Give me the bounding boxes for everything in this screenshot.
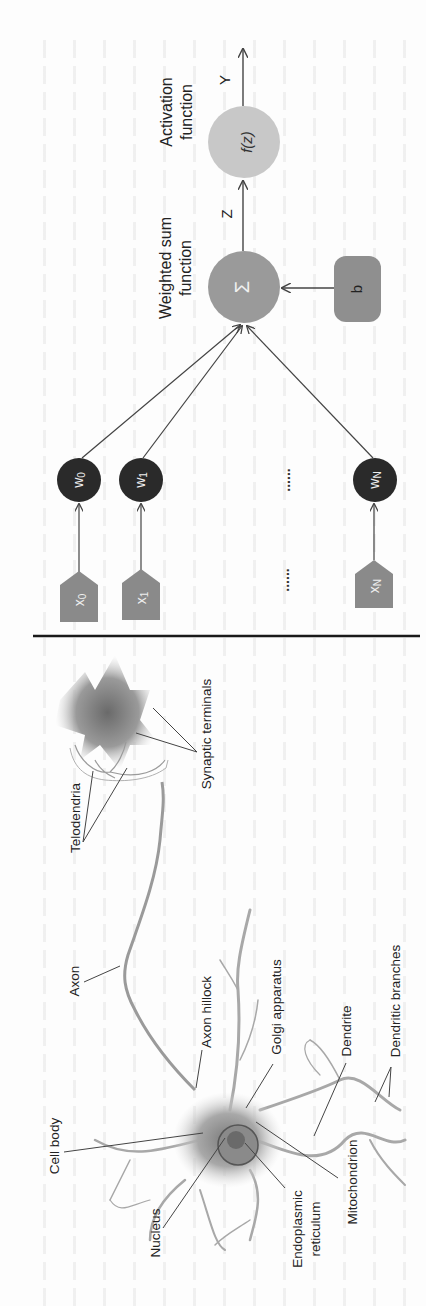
input-node-n: xN (355, 560, 393, 608)
weights-ellipsis: ...... (277, 468, 293, 491)
label-axon: Axon (67, 966, 82, 997)
label-endoplasmic-reticulum-line1: Endoplasmic (290, 1190, 305, 1268)
label-cell-body: Cell body (47, 1118, 62, 1175)
label-endoplasmic-reticulum-line2: reticulum (308, 1202, 323, 1257)
activation-symbol: f(z) (238, 131, 255, 153)
w1-to-sum-arrow (143, 326, 242, 458)
label-nucleus: Nucleus (148, 1208, 163, 1257)
sigma-symbol: Σ (231, 281, 253, 293)
w0-to-sum-arrow (82, 325, 240, 458)
label-telodendria: Telodendria (68, 783, 83, 853)
weight-node-0: w0 (57, 458, 101, 502)
neuron-comparison-diagram: Y f(z) Activation function Z Σ Weighted … (0, 0, 426, 1306)
label-dendrite: Dendrite (339, 1005, 354, 1056)
output-label: Y (216, 75, 233, 85)
label-axon-hillock: Axon hillock (199, 976, 214, 1048)
axon-shape (125, 782, 195, 1090)
inputs-ellipsis: ...... (276, 568, 292, 591)
activation-label-line2: function (178, 84, 195, 140)
label-mitochondrion: Mitochondrion (345, 1140, 360, 1225)
label-synaptic-terminals: Synaptic terminals (199, 679, 214, 790)
wn-to-sum-arrow (247, 326, 373, 458)
input-node-1: x1 (122, 569, 160, 620)
label-dendritic-branches: Dendritic branches (388, 944, 403, 1057)
activation-label-line1: Activation (158, 77, 175, 146)
artificial-neuron: Y f(z) Activation function Z Σ Weighted … (57, 49, 397, 622)
bias-label: b (348, 285, 365, 293)
weight-node-1: w1 (119, 458, 163, 502)
input-node-0: x0 (60, 571, 98, 622)
weight-node-n: wN (353, 458, 397, 502)
weighted-sum-label-line2: function (177, 240, 194, 296)
z-label: Z (218, 209, 235, 218)
figure-page: Y f(z) Activation function Z Σ Weighted … (0, 0, 426, 1306)
biological-neuron: Synaptic terminals Telodendria Axon Axon… (47, 655, 405, 1268)
weighted-sum-label-line1: Weighted sum (157, 217, 174, 319)
label-golgi-apparatus: Golgi apparatus (269, 959, 284, 1055)
